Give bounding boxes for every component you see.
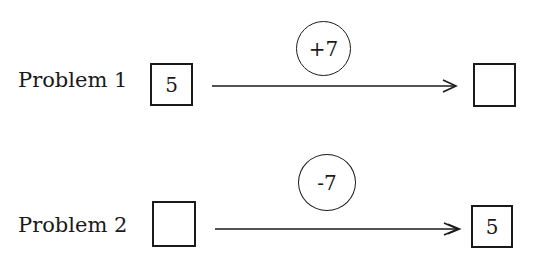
- problem-2-label: Problem 2: [18, 213, 127, 237]
- problem-1-operator: +7: [309, 37, 338, 61]
- problem-2-start-box[interactable]: [152, 201, 196, 247]
- problem-1-start-box[interactable]: 5: [150, 63, 193, 106]
- problem-2-operator: -7: [317, 171, 336, 195]
- problem-1-start-value: 5: [165, 73, 178, 97]
- problem-1-label: Problem 1: [18, 68, 127, 92]
- problem-1-arrow-icon: [212, 78, 458, 94]
- problem-2-end-value: 5: [486, 215, 499, 239]
- problem-1-operator-circle: +7: [296, 21, 351, 76]
- problem-2-arrow-icon: [215, 221, 461, 237]
- problem-2-end-box[interactable]: 5: [471, 205, 513, 248]
- problem-2-operator-circle: -7: [298, 154, 356, 211]
- problem-1-end-box[interactable]: [473, 63, 516, 107]
